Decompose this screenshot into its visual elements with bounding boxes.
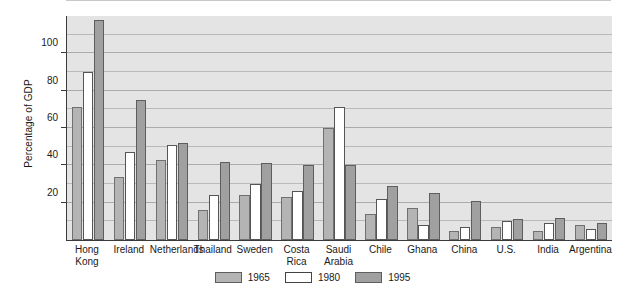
- x-axis-label: India: [527, 244, 569, 256]
- bar-group: [193, 16, 235, 240]
- top-rule: [66, 0, 611, 1]
- bar-1980[interactable]: [460, 227, 470, 240]
- legend-item[interactable]: 1995: [355, 272, 410, 283]
- bar-1995[interactable]: [303, 165, 313, 240]
- legend-swatch: [285, 272, 312, 283]
- plot-area: 20406080100: [66, 16, 612, 241]
- legend-item[interactable]: 1980: [285, 272, 340, 283]
- bar-1995[interactable]: [178, 143, 188, 240]
- bar-1965[interactable]: [533, 231, 543, 240]
- bar-1965[interactable]: [575, 225, 585, 240]
- bar-1995[interactable]: [261, 163, 271, 240]
- x-axis-label: Netherlands: [150, 244, 192, 256]
- y-axis-tick-label: 20: [47, 186, 58, 197]
- legend-label: 1980: [318, 272, 340, 283]
- y-axis-tick-label: 80: [47, 74, 58, 85]
- legend-label: 1995: [388, 272, 410, 283]
- bar-1965[interactable]: [491, 227, 501, 240]
- legend-swatch: [355, 272, 382, 283]
- bar-group: [528, 16, 570, 240]
- bar-1980[interactable]: [544, 223, 554, 240]
- y-axis-tick-label: 60: [47, 112, 58, 123]
- bar-1965[interactable]: [323, 128, 333, 240]
- bar-group: [151, 16, 193, 240]
- bar-group: [570, 16, 612, 240]
- bar-1965[interactable]: [281, 197, 291, 240]
- bar-1995[interactable]: [471, 201, 481, 240]
- bar-1995[interactable]: [136, 100, 146, 240]
- bar-1980[interactable]: [209, 195, 219, 240]
- bar-1980[interactable]: [502, 221, 512, 240]
- x-axis-label: Argentina: [569, 244, 611, 256]
- bar-1995[interactable]: [94, 20, 104, 240]
- bar-chart: Percentage of GDP 20406080100 Hong KongI…: [0, 0, 625, 300]
- bar-group: [235, 16, 277, 240]
- x-axis-label: U.S.: [485, 244, 527, 256]
- chart-legend: 196519801995: [0, 272, 625, 283]
- bar-1980[interactable]: [418, 225, 428, 240]
- bar-1980[interactable]: [167, 145, 177, 240]
- x-axis-label: China: [443, 244, 485, 256]
- x-axis-label: Saudi Arabia: [318, 244, 360, 267]
- bar-1980[interactable]: [376, 199, 386, 240]
- bar-group: [319, 16, 361, 240]
- bar-1965[interactable]: [198, 210, 208, 240]
- legend-swatch: [215, 272, 242, 283]
- x-axis-label: Sweden: [234, 244, 276, 256]
- legend-item[interactable]: 1965: [215, 272, 270, 283]
- bar-1965[interactable]: [114, 177, 124, 240]
- bar-group: [444, 16, 486, 240]
- bar-group: [402, 16, 444, 240]
- x-axis-label: Ghana: [401, 244, 443, 256]
- bar-series-container: [67, 16, 612, 240]
- bar-group: [360, 16, 402, 240]
- bar-1965[interactable]: [407, 208, 417, 240]
- bar-1965[interactable]: [365, 214, 375, 240]
- bar-1980[interactable]: [334, 107, 344, 240]
- bar-1995[interactable]: [555, 218, 565, 240]
- bar-group: [486, 16, 528, 240]
- y-axis-tick-label: 100: [41, 37, 58, 48]
- bar-1965[interactable]: [156, 160, 166, 240]
- bar-group: [67, 16, 109, 240]
- bar-1995[interactable]: [220, 162, 230, 240]
- bar-1965[interactable]: [72, 107, 82, 240]
- y-axis-tick-label: 40: [47, 149, 58, 160]
- bar-1995[interactable]: [597, 223, 607, 240]
- bar-1995[interactable]: [387, 186, 397, 240]
- x-axis-category-labels: Hong KongIrelandNetherlandsThailandSwede…: [66, 244, 611, 274]
- bar-1980[interactable]: [292, 191, 302, 240]
- bar-1965[interactable]: [449, 231, 459, 240]
- bar-group: [109, 16, 151, 240]
- bar-1995[interactable]: [345, 165, 355, 240]
- x-axis-label: Hong Kong: [66, 244, 108, 267]
- x-axis-label: Ireland: [108, 244, 150, 256]
- bar-1980[interactable]: [125, 152, 135, 240]
- x-axis-label: Chile: [359, 244, 401, 256]
- bar-1980[interactable]: [83, 72, 93, 240]
- bar-1980[interactable]: [586, 229, 596, 240]
- bar-1995[interactable]: [429, 193, 439, 240]
- x-axis-label: Thailand: [192, 244, 234, 256]
- bar-1965[interactable]: [239, 195, 249, 240]
- legend-label: 1965: [248, 272, 270, 283]
- y-axis-title: Percentage of GDP: [23, 34, 34, 214]
- bar-group: [277, 16, 319, 240]
- bar-1980[interactable]: [250, 184, 260, 240]
- bar-1995[interactable]: [513, 219, 523, 240]
- x-axis-label: Costa Rica: [276, 244, 318, 267]
